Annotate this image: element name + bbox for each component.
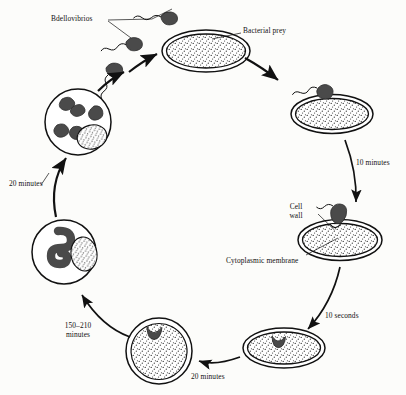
stage-bdelloplast [126,318,192,384]
stage-filamentous-growth [32,220,99,284]
timing-10-minutes: 10 minutes [356,158,390,167]
arrow-to-prey [129,54,157,72]
stage-attachment [291,85,373,134]
arrow-filament-to-lysis [54,158,66,217]
bdellovibrio-cell [101,38,142,52]
label-cell-wall: Cell wall [283,203,309,220]
diagram-canvas: Bdellovibrios Bacterial prey Cell wall C… [0,0,406,395]
arrow-attachment-to-penetration [345,140,356,202]
timing-10-seconds: 10 seconds [325,311,359,320]
timing-20-minutes-left: 20 minutes [9,179,43,188]
label-cytoplasmic-membrane: Cytoplasmic membrane [226,256,298,265]
bdellovibrio-cell [101,63,123,99]
stage-bacterial-prey [162,30,250,72]
stage-periplasm-entry [243,328,325,368]
arrow-periplasm-to-bdelloplast [199,357,240,363]
timing-150-210-minutes: 150–210 minutes [55,322,101,339]
leader-bdellovibrios-lower [108,21,131,38]
label-bacterial-prey: Bacterial prey [243,26,286,35]
stage-penetration [298,204,382,261]
arrow-prey-to-attachment [245,58,278,80]
bdellovibrio-cell [133,12,177,25]
label-bdellovibrios: Bdellovibrios [51,14,93,23]
stage-lysis-release [45,89,111,155]
timing-20-minutes-bottom: 20 minutes [191,372,225,381]
